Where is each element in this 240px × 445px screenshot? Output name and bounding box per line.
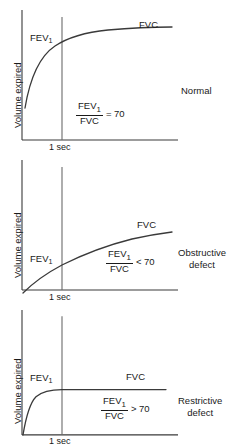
diagnosis-label-normal: Normal: [181, 85, 212, 97]
diagnosis-line-1: Restrictive: [178, 395, 222, 407]
ratio-restrictive: FEV1 FVC > 70: [101, 396, 150, 422]
fev1-label: FEV1: [30, 254, 52, 265]
x-tick-label-1sec: 1 sec: [49, 436, 71, 445]
y-axis-label: Volume expired: [12, 63, 23, 128]
y-axis-label: Volume expired: [12, 359, 23, 424]
fvc-label: FVC: [126, 372, 145, 383]
diagnosis-line-2: defect: [178, 407, 222, 419]
diagnosis-label-restrictive: Restrictive defect: [178, 395, 222, 419]
ratio-denominator: FVC: [76, 115, 103, 127]
ratio-fraction: FEV1 FVC: [101, 396, 128, 422]
panel-obstructive-plot: [0, 150, 240, 300]
ratio-normal: FEV1 FVC = 70: [76, 101, 125, 127]
fvc-label: FVC: [139, 20, 158, 31]
ratio-numerator: FEV1: [76, 101, 103, 115]
ratio-fraction: FEV1 FVC: [106, 249, 133, 275]
y-axis-label: Volume expired: [12, 213, 23, 278]
panel-obstructive: Volume expired FEV1 FVC FEV1 FVC < 70 1 …: [0, 150, 240, 300]
panel-restrictive: Volume expired FEV1 FVC FEV1 FVC > 70 1 …: [0, 296, 240, 445]
fvc-label: FVC: [137, 220, 156, 231]
diagnosis-line-2: defect: [178, 259, 226, 271]
fev1-label: FEV1: [30, 33, 52, 44]
ratio-numerator: FEV1: [106, 249, 133, 263]
ratio-operator: > 70: [131, 403, 150, 414]
diagnosis-line-1: Obstructive: [178, 247, 226, 259]
ratio-fraction: FEV1 FVC: [76, 101, 103, 127]
ratio-operator: < 70: [136, 256, 155, 267]
ratio-denominator: FVC: [106, 263, 133, 275]
diagnosis-label-obstructive: Obstructive defect: [178, 247, 226, 271]
panel-restrictive-plot: [0, 296, 240, 445]
panel-normal-plot: [0, 0, 240, 150]
ratio-numerator: FEV1: [101, 396, 128, 410]
fev1-label: FEV1: [30, 373, 52, 384]
ratio-denominator: FVC: [101, 410, 128, 422]
spirometry-figure: Volume expired FEV1 FVC FEV1 FVC = 70 1 …: [0, 0, 240, 445]
panel-normal: Volume expired FEV1 FVC FEV1 FVC = 70 1 …: [0, 0, 240, 150]
ratio-operator: = 70: [106, 108, 125, 119]
ratio-obstructive: FEV1 FVC < 70: [106, 249, 155, 275]
